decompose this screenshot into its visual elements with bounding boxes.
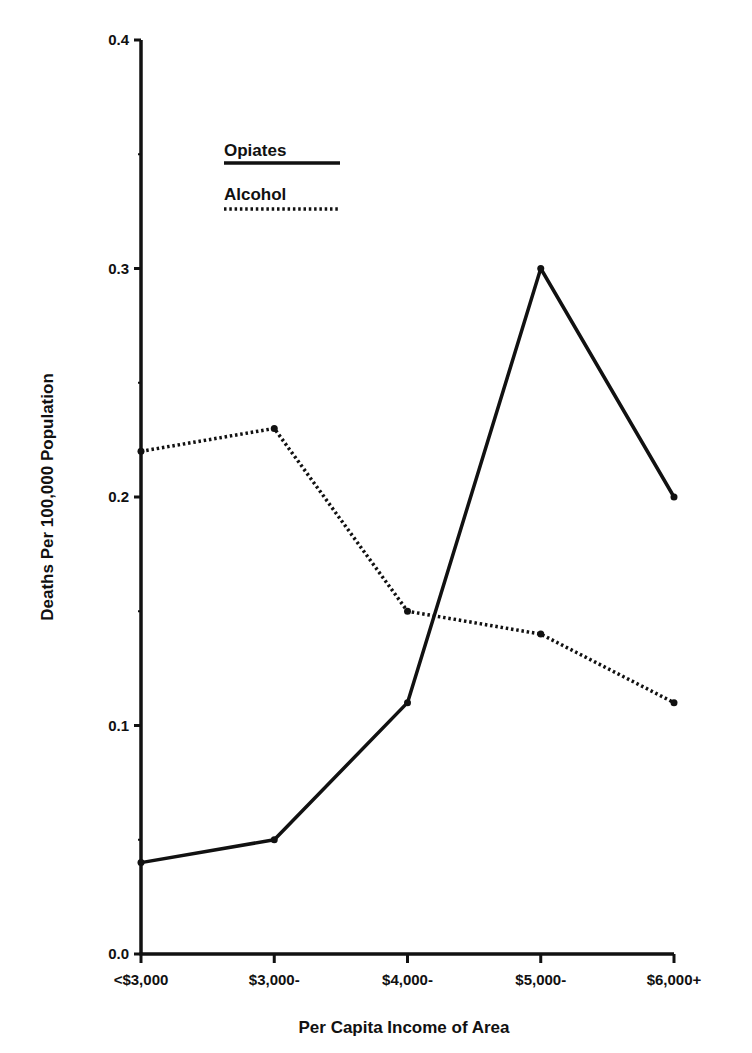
- data-series: [138, 265, 678, 866]
- x-tick-label: $5,000-: [515, 971, 566, 988]
- data-point-alcohol: [404, 608, 411, 615]
- y-tick-label: 0.0: [108, 945, 129, 962]
- y-tick-label: 0.1: [108, 717, 129, 734]
- data-point-alcohol: [537, 631, 544, 638]
- data-point-opiates: [271, 836, 278, 843]
- axes: [140, 40, 675, 954]
- y-axis-title: Deaths Per 100,000 Population: [38, 373, 57, 621]
- x-tick-label: $3,000-: [249, 971, 300, 988]
- data-point-alcohol: [671, 699, 678, 706]
- x-tick-label: $6,000+: [647, 971, 702, 988]
- legend: Opiates Alcohol: [224, 141, 340, 209]
- y-tick-label: 0.4: [108, 31, 130, 48]
- series-line-alcohol: [141, 428, 674, 702]
- data-point-alcohol: [138, 448, 145, 455]
- data-point-opiates: [138, 859, 145, 866]
- x-tick-label: <$3,000: [114, 971, 169, 988]
- legend-label-alcohol: Alcohol: [224, 185, 286, 204]
- y-axis-ticks: 0.00.10.20.30.4: [108, 31, 141, 962]
- data-point-opiates: [404, 699, 411, 706]
- x-axis-ticks: <$3,000$3,000-$4,000-$5,000-$6,000+: [114, 954, 702, 988]
- x-tick-label: $4,000-: [382, 971, 433, 988]
- y-tick-label: 0.2: [108, 488, 129, 505]
- data-point-opiates: [537, 265, 544, 272]
- line-chart: 0.00.10.20.30.4 <$3,000$3,000-$4,000-$5,…: [0, 0, 752, 1053]
- data-point-alcohol: [271, 425, 278, 432]
- series-line-opiates: [141, 269, 674, 863]
- data-point-opiates: [671, 494, 678, 501]
- y-tick-label: 0.3: [108, 260, 129, 277]
- x-axis-title: Per Capita Income of Area: [299, 1018, 511, 1037]
- legend-label-opiates: Opiates: [224, 141, 286, 160]
